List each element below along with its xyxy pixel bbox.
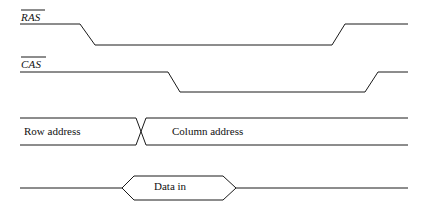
ras-signal-label: RAS [21,12,41,23]
column-address-label: Column address [172,126,243,137]
cas-waveform [20,72,408,92]
ras-waveform [20,24,408,45]
row-address-label: Row address [24,126,81,137]
data-in-label: Data in [154,181,186,192]
timing-diagram: RAS CAS Row address Column address Data … [0,0,421,213]
cas-signal-label: CAS [21,59,41,70]
waveform-canvas [0,0,421,213]
